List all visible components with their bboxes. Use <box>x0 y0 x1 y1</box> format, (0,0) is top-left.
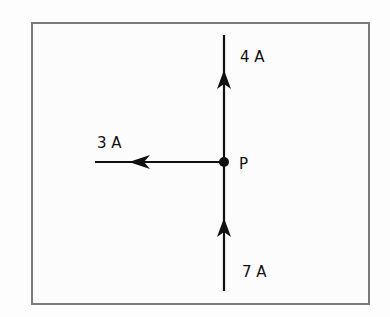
junction-point <box>219 157 229 167</box>
label-left-current: 3 A <box>97 134 122 152</box>
label-bottom-current: 7 A <box>242 263 267 281</box>
diagram-canvas: 4 A 3 A P 7 A <box>0 0 390 317</box>
label-top-current: 4 A <box>240 48 265 66</box>
junction-diagram: 4 A 3 A P 7 A <box>0 0 390 317</box>
label-junction: P <box>239 155 248 173</box>
